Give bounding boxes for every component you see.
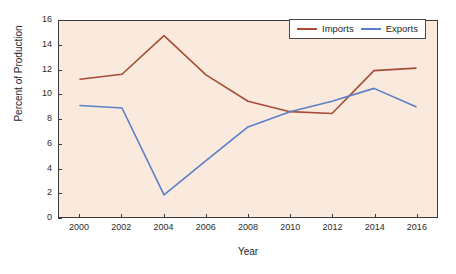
data-series-svg — [59, 21, 437, 217]
line-series-imports — [80, 36, 416, 114]
legend-label-imports: Imports — [322, 24, 354, 34]
y-tick-label: 2 — [12, 188, 52, 197]
y-tick-label: 0 — [12, 213, 52, 222]
legend-swatch-exports-icon — [361, 28, 381, 30]
x-tick-label: 2002 — [101, 223, 141, 232]
line-series-exports — [80, 88, 416, 195]
x-tick-label: 2010 — [270, 223, 310, 232]
x-tick-label: 2016 — [397, 223, 437, 232]
x-tick-label: 2006 — [186, 223, 226, 232]
chart-legend: Imports Exports — [289, 19, 426, 39]
legend-entry-exports[interactable]: Exports — [361, 24, 418, 34]
plot-area — [58, 20, 438, 218]
x-tick-label: 2012 — [312, 223, 352, 232]
x-tick-label: 2004 — [144, 223, 184, 232]
x-axis-title: Year — [58, 246, 438, 257]
y-axis-title: Percent of Production — [13, 0, 24, 154]
x-tick-label: 2000 — [59, 223, 99, 232]
legend-swatch-imports-icon — [297, 28, 317, 30]
x-tick-label: 2008 — [228, 223, 268, 232]
legend-label-exports: Exports — [386, 24, 418, 34]
legend-entry-imports[interactable]: Imports — [297, 24, 354, 34]
y-tick-mark — [58, 218, 62, 219]
y-tick-label: 4 — [12, 164, 52, 173]
chart-figure: 0246810121416 20002002200420062008201020… — [0, 0, 456, 274]
x-tick-label: 2014 — [355, 223, 395, 232]
